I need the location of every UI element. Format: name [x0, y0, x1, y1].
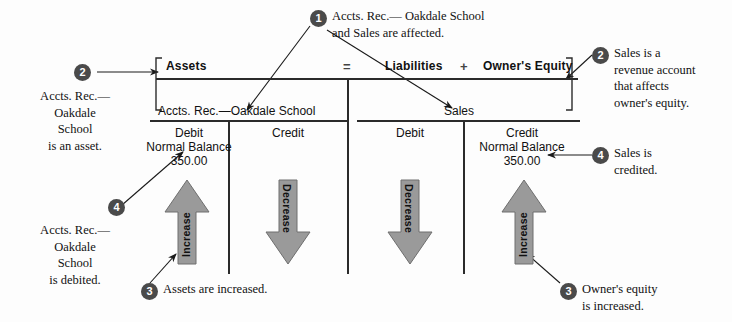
t-account-2-name: Sales	[444, 104, 474, 118]
diagram-canvas: Assets = Liabilities + Owner's Equity Ac…	[0, 0, 732, 322]
t-account-1-credit-header: Credit	[230, 126, 346, 140]
t-account-1-debit-increase-arrow: Increase	[163, 178, 211, 266]
callout-2-right-bullet: 2	[592, 47, 609, 64]
equation-assets-label: Assets	[166, 59, 207, 73]
t-account-1-credit-effect-label: Decrease	[281, 184, 293, 233]
t-accounts-center-divider	[347, 78, 349, 274]
callout-3-left-bullet: 3	[141, 283, 158, 300]
callout-2-right-text: Sales is a revenue account that affects …	[614, 45, 732, 111]
equation-liabilities-label: Liabilities	[385, 59, 443, 73]
equation-owners-equity-label: Owner's Equity	[483, 59, 573, 73]
callout-3-right-bullet: 3	[560, 283, 577, 300]
t-account-2-credit-effect-label: Increase	[517, 212, 529, 257]
callout-4-right-text: Sales is credited.	[614, 145, 726, 178]
t-account-2-credit-amount: 350.00	[465, 154, 579, 168]
equation-equals-sign: =	[343, 59, 351, 74]
callout-3-right-text: Owner's equity is increased.	[582, 281, 722, 314]
t-account-2-credit-normal-balance-label: Normal Balance	[463, 140, 581, 154]
callout-4-right-bullet: 4	[592, 147, 609, 164]
t-account-2-debit-effect-label: Decrease	[403, 184, 415, 233]
callout-1-text: Accts. Rec.— Oakdale School and Sales ar…	[332, 8, 552, 41]
t-account-1-top-rule	[150, 120, 347, 122]
equation-underline	[156, 78, 578, 80]
t-account-1-debit-normal-balance-label: Normal Balance	[142, 140, 236, 154]
callout-4-left-bullet: 4	[108, 199, 125, 216]
t-account-2-credit-increase-arrow: Increase	[500, 178, 548, 266]
t-account-2-top-rule	[357, 120, 580, 122]
t-account-1-debit-amount: 350.00	[150, 154, 228, 168]
t-account-1-debit-header: Debit	[150, 126, 228, 140]
t-account-1-name: Accts. Rec.—Oakdale School	[158, 104, 315, 118]
callout-2-left-text: Accts. Rec.— Oakdale School is an asset.	[10, 88, 140, 154]
t-account-2-debit-header: Debit	[358, 126, 462, 140]
callout-1-bullet: 1	[310, 10, 327, 27]
equation-plus-sign: +	[460, 59, 468, 74]
t-account-2-debit-decrease-arrow: Decrease	[386, 178, 434, 266]
t-account-2-credit-header: Credit	[465, 126, 579, 140]
callout-4-left-text: Accts. Rec.— Oakdale School is debited.	[10, 222, 140, 288]
callout-3-left-text: Assets are increased.	[163, 281, 363, 298]
t-account-1-debit-effect-label: Increase	[180, 212, 192, 257]
t-account-1-credit-decrease-arrow: Decrease	[264, 178, 312, 266]
callout-2-left-bullet: 2	[74, 64, 91, 81]
